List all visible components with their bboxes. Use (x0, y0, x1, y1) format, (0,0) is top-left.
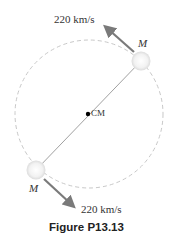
velocity-arrow-bottom (44, 179, 71, 204)
figure-caption: Figure P13.13 (0, 221, 173, 233)
velocity-label-bottom: 220 km/s (81, 203, 122, 215)
mass-label-bottom: M (29, 182, 38, 194)
mass-label-top: M (138, 37, 147, 49)
velocity-arrow-top (108, 29, 134, 52)
cm-dot (86, 112, 90, 116)
star-bottom (27, 161, 46, 180)
velocity-label-top: 220 km/s (54, 13, 95, 25)
star-top (132, 52, 151, 71)
cm-label: CM (91, 108, 105, 118)
